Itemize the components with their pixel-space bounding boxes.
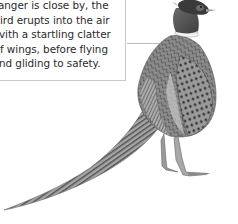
page-canvas: anger is close by, the ird erupts into t… (0, 0, 238, 224)
pheasant-illustration (0, 0, 238, 224)
leg-front (174, 136, 206, 176)
